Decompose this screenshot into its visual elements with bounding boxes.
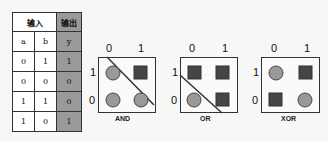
row-label-1: 1	[172, 66, 178, 78]
circle-marker	[106, 93, 120, 107]
cell-y: 1	[57, 112, 82, 132]
row-label-0: 0	[171, 94, 177, 106]
col-label-0: 0	[106, 42, 112, 54]
row-label-0: 0	[252, 94, 258, 106]
cell-a: 1	[13, 92, 35, 112]
table-row: 1 0 1	[13, 112, 82, 132]
square-marker	[216, 93, 229, 106]
square-marker	[216, 66, 229, 79]
square-marker	[134, 66, 147, 79]
col-a-header: a	[13, 32, 35, 52]
row-label-1: 1	[90, 66, 96, 78]
table-row: 1 1 0	[13, 92, 82, 112]
cell-y: 0	[57, 72, 82, 92]
kmap-title: OR	[200, 115, 211, 122]
kmap-title: AND	[115, 115, 130, 122]
row-label-0: 0	[89, 94, 95, 106]
circle-marker	[134, 93, 148, 107]
cell-b: 0	[35, 112, 57, 132]
kmap-title: XOR	[281, 115, 296, 122]
table-row: 0 1 1	[13, 52, 82, 72]
col-b-header: b	[35, 32, 57, 52]
row-label-1: 1	[253, 66, 259, 78]
circle-marker	[187, 93, 201, 107]
cell-y: 1	[57, 52, 82, 72]
cell-a: 1	[13, 112, 35, 132]
circle-marker	[269, 66, 283, 80]
cell-a: 0	[13, 52, 35, 72]
col-y-header: y	[57, 32, 82, 52]
col-label-0: 0	[271, 42, 277, 54]
table-row: 0 0 0	[13, 72, 82, 92]
cell-b: 1	[35, 92, 57, 112]
cell-b: 0	[35, 72, 57, 92]
output-header: 输出	[57, 13, 82, 32]
col-label-1: 1	[138, 42, 144, 54]
circle-marker	[298, 93, 312, 107]
cell-y: 0	[57, 92, 82, 112]
cell-a: 0	[13, 72, 35, 92]
square-marker	[269, 93, 282, 106]
square-marker	[188, 66, 201, 79]
cell-b: 1	[35, 52, 57, 72]
square-marker	[299, 66, 312, 79]
col-label-0: 0	[189, 42, 195, 54]
input-header: 输入	[13, 13, 57, 32]
col-label-1: 1	[222, 42, 228, 54]
col-label-1: 1	[304, 42, 310, 54]
truth-table: 输入 输出 a b y 0 1 1 0 0 0 1 1 0 1 0 1	[12, 12, 82, 132]
circle-marker	[106, 66, 120, 80]
